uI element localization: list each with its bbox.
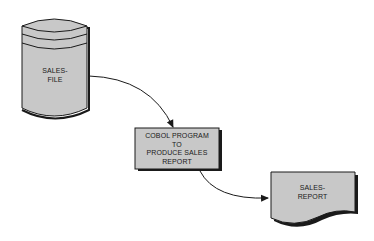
sales-report-label-line1: SALES- [290,184,335,193]
sales-file-label-line1: SALES- [35,67,75,76]
cobol-program-label-line1: COBOL PROGRAM [135,132,219,141]
sales-report-label-line2: REPORT [290,193,335,202]
cobol-program-label-line4: REPORT [135,158,219,167]
cobol-program-label-line2: TO [135,141,219,150]
flowchart-canvas [0,0,374,241]
sales-file-label: SALES- FILE [35,67,75,84]
sales-file-label-line2: FILE [35,76,75,85]
cobol-program-label-line3: PRODUCE SALES [135,149,219,158]
edge-file-to-program [89,76,173,127]
sales-report-label: SALES- REPORT [290,184,335,201]
edge-program-to-report [200,171,268,198]
cobol-program-label: COBOL PROGRAM TO PRODUCE SALES REPORT [135,132,219,166]
